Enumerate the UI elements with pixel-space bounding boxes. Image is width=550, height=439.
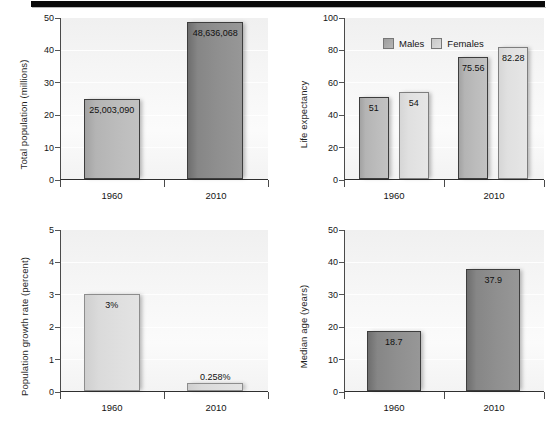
y-tick-2: 2 — [49, 322, 54, 332]
y-tick-40: 40 — [328, 110, 338, 120]
bar-value-growth-1960: 3% — [85, 300, 139, 310]
y-axis-title-label: Life expectancy — [299, 80, 310, 148]
bar-life-females-1960[interactable]: 54 — [399, 92, 429, 179]
x-tick — [164, 180, 165, 187]
plot-area-life-expectancy: Males Females 51 54 75.56 82.28 — [344, 18, 544, 180]
bar-group-total-population: 25,003,090 48,636,068 — [61, 18, 268, 179]
plot-area-total-population: 25,003,090 48,636,068 — [60, 18, 268, 180]
y-tick-5: 5 — [49, 225, 54, 235]
x-tick — [344, 180, 345, 187]
x-label-2010: 2010 — [205, 402, 226, 413]
chart-panel-total-population: Total population (millions) 0 10 20 30 4… — [16, 14, 278, 214]
y-axis-title-label: Population growth rate (percent) — [19, 257, 30, 396]
y-tick-4: 4 — [49, 257, 54, 267]
plot-wrapper-median-age: 0 10 20 30 40 50 18.7 37.9 — [318, 230, 544, 392]
x-tick — [268, 180, 269, 187]
bar-life-females-2010[interactable]: 82.28 — [498, 47, 528, 180]
bar-value-median-age-2010: 37.9 — [467, 275, 519, 285]
y-tick-50: 50 — [328, 225, 338, 235]
y-axis-title-life-expectancy: Life expectancy — [296, 14, 312, 214]
y-tick-10: 10 — [44, 143, 54, 153]
y-tick-30: 30 — [44, 78, 54, 88]
y-axis-ticks-median-age: 0 10 20 30 40 50 — [318, 230, 344, 392]
y-axis-title-total-population: Total population (millions) — [16, 14, 32, 214]
bar-life-males-1960[interactable]: 51 — [359, 97, 389, 179]
bar-value-life-males-2010: 75.56 — [459, 63, 487, 73]
x-label-2010: 2010 — [483, 402, 504, 413]
chart-panel-life-expectancy: Life expectancy 0 20 40 60 80 100 Males — [296, 14, 550, 214]
y-tick-60: 60 — [328, 78, 338, 88]
y-tick-100: 100 — [323, 13, 338, 23]
plot-wrapper-growth-rate: 0 1 2 3 4 5 3% 0.258% 196 — [34, 230, 268, 392]
y-tick-0: 0 — [49, 387, 54, 397]
x-tick — [164, 392, 165, 399]
y-tick-20: 20 — [328, 322, 338, 332]
y-axis-title-label: Total population (millions) — [19, 59, 30, 169]
x-label-1960: 1960 — [101, 190, 122, 201]
chart-panel-population-growth-rate: Population growth rate (percent) 0 1 2 3… — [16, 226, 278, 426]
x-axis-life-expectancy: 1960 2010 — [344, 180, 544, 214]
plot-wrapper-total-population: 0 10 20 30 40 50 25,003,090 48,636,068 — [34, 18, 268, 180]
x-tick — [544, 180, 545, 187]
x-axis-growth-rate: 1960 2010 — [60, 392, 268, 426]
x-label-2010: 2010 — [483, 190, 504, 201]
y-axis-title-median-age: Median age (years) — [296, 226, 312, 426]
y-axis-ticks-total-population: 0 10 20 30 40 50 — [34, 18, 60, 180]
bar-value-population-2010: 48,636,068 — [188, 28, 242, 38]
y-tick-30: 30 — [328, 290, 338, 300]
y-tick-0: 0 — [333, 175, 338, 185]
x-tick — [344, 392, 345, 399]
bar-value-life-females-2010: 82.28 — [499, 53, 527, 63]
bar-value-life-females-1960: 54 — [400, 98, 428, 108]
y-tick-20: 20 — [328, 143, 338, 153]
bar-population-1960[interactable]: 25,003,090 — [84, 99, 140, 180]
bar-group-life-expectancy: 51 54 75.56 82.28 — [345, 18, 544, 179]
x-tick — [544, 392, 545, 399]
x-tick — [444, 180, 445, 187]
x-tick — [268, 392, 269, 399]
y-tick-20: 20 — [44, 110, 54, 120]
y-tick-3: 3 — [49, 290, 54, 300]
x-axis-median-age: 1960 2010 — [344, 392, 544, 426]
bar-median-age-1960[interactable]: 18.7 — [367, 331, 421, 391]
bar-median-age-2010[interactable]: 37.9 — [466, 269, 520, 391]
y-tick-1: 1 — [49, 355, 54, 365]
plot-area-growth-rate: 3% 0.258% — [60, 230, 268, 392]
x-tick — [60, 392, 61, 399]
x-axis-total-population: 1960 2010 — [60, 180, 268, 214]
y-tick-0: 0 — [49, 175, 54, 185]
y-axis-ticks-life-expectancy: 0 20 40 60 80 100 — [318, 18, 344, 180]
x-label-1960: 1960 — [383, 190, 404, 201]
x-label-1960: 1960 — [383, 402, 404, 413]
bar-value-population-1960: 25,003,090 — [85, 105, 139, 115]
bar-group-median-age: 18.7 37.9 — [345, 230, 544, 391]
y-tick-0: 0 — [333, 387, 338, 397]
bar-value-growth-2010: 0.258% — [188, 372, 242, 382]
x-tick — [444, 392, 445, 399]
y-tick-10: 10 — [328, 355, 338, 365]
y-axis-title-label: Median age (years) — [299, 284, 310, 368]
plot-area-median-age: 18.7 37.9 — [344, 230, 544, 392]
y-tick-40: 40 — [328, 257, 338, 267]
bar-value-life-males-1960: 51 — [360, 103, 388, 113]
plot-wrapper-life-expectancy: 0 20 40 60 80 100 Males Females — [318, 18, 544, 180]
top-decorative-rule — [31, 1, 545, 7]
y-axis-title-growth-rate: Population growth rate (percent) — [16, 226, 32, 426]
chart-panel-median-age: Median age (years) 0 10 20 30 40 50 18.7… — [296, 226, 550, 426]
y-tick-50: 50 — [44, 13, 54, 23]
y-tick-40: 40 — [44, 45, 54, 55]
bar-value-median-age-1960: 18.7 — [368, 337, 420, 347]
bar-group-growth-rate: 3% 0.258% — [61, 230, 268, 391]
y-axis-ticks-growth-rate: 0 1 2 3 4 5 — [34, 230, 60, 392]
x-label-1960: 1960 — [101, 402, 122, 413]
x-label-2010: 2010 — [205, 190, 226, 201]
bar-population-2010[interactable]: 48,636,068 — [187, 22, 243, 179]
bar-growth-1960[interactable]: 3% — [84, 294, 140, 391]
y-tick-80: 80 — [328, 45, 338, 55]
bar-growth-2010[interactable]: 0.258% — [187, 383, 243, 391]
bar-life-males-2010[interactable]: 75.56 — [458, 57, 488, 179]
x-tick — [60, 180, 61, 187]
